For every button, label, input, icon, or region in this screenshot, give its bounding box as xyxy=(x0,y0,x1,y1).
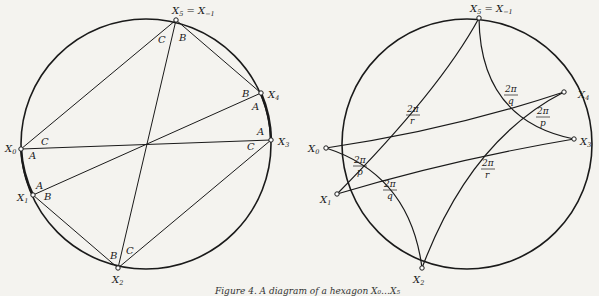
svg-text:r: r xyxy=(410,116,415,126)
svg-text:X3: X3 xyxy=(579,136,591,149)
svg-text:A: A xyxy=(35,180,43,191)
svg-text:B: B xyxy=(43,191,51,202)
svg-text:B: B xyxy=(109,250,117,261)
svg-text:C: C xyxy=(126,245,134,256)
svg-text:B: B xyxy=(241,88,249,99)
svg-text:A: A xyxy=(28,150,36,161)
svg-text:A: A xyxy=(256,126,264,137)
svg-text:X1: X1 xyxy=(16,192,28,205)
svg-text:X2: X2 xyxy=(111,274,123,287)
svg-text:X4: X4 xyxy=(577,89,589,102)
svg-text:p: p xyxy=(540,118,546,128)
svg-text:X4: X4 xyxy=(267,89,279,102)
svg-text:X1: X1 xyxy=(319,194,331,207)
svg-text:C: C xyxy=(41,136,49,147)
right-circle xyxy=(342,19,592,269)
svg-text:2π: 2π xyxy=(536,106,550,116)
svg-text:q: q xyxy=(387,191,393,201)
right-labels: X5 = X−1 X4 X3 X0 X1 X2 2πr 2πq 2πp 2πp … xyxy=(307,3,591,287)
label-x5: X5 = X−1 xyxy=(171,5,215,18)
right-diagram xyxy=(324,16,592,270)
svg-text:X5 = X−1: X5 = X−1 xyxy=(469,3,513,16)
svg-text:2π: 2π xyxy=(504,84,518,94)
svg-text:X0: X0 xyxy=(307,143,319,156)
left-diagram xyxy=(19,18,273,270)
svg-text:p: p xyxy=(357,167,363,177)
svg-text:X3: X3 xyxy=(277,136,289,149)
svg-text:2π: 2π xyxy=(383,179,397,189)
svg-text:B: B xyxy=(178,32,186,43)
svg-text:C: C xyxy=(158,34,166,45)
svg-text:X0: X0 xyxy=(4,143,16,156)
svg-text:2π: 2π xyxy=(353,155,367,165)
figure-caption: Figure 4. A diagram of a hexagon X₀…X₅ xyxy=(215,286,400,296)
svg-text:C: C xyxy=(247,141,255,152)
svg-text:r: r xyxy=(485,170,490,180)
svg-text:X2: X2 xyxy=(412,274,424,287)
svg-text:q: q xyxy=(508,96,514,106)
svg-text:2π: 2π xyxy=(481,158,495,168)
svg-text:A: A xyxy=(251,101,259,112)
svg-text:2π: 2π xyxy=(406,104,420,114)
